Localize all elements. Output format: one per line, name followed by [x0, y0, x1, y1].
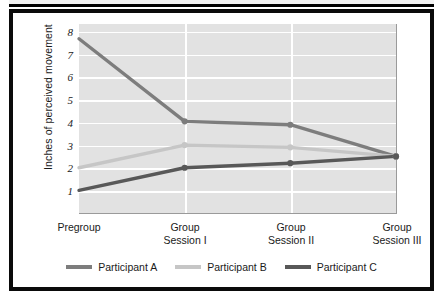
series-line — [79, 156, 396, 190]
legend-item[interactable]: Participant C — [285, 261, 377, 273]
legend-item[interactable]: Participant B — [175, 261, 267, 273]
y-tick-label: 2 — [68, 162, 74, 174]
plot-area: 12345678 — [79, 24, 397, 214]
data-series-layer — [79, 24, 396, 213]
data-point-marker — [182, 165, 188, 171]
figure-root: Inches of perceived movement 12345678 Pr… — [0, 0, 443, 298]
y-tick-label: 8 — [68, 26, 74, 38]
y-tick-label: 6 — [68, 71, 74, 83]
legend-label: Participant B — [207, 261, 267, 273]
legend-line-swatch — [175, 265, 201, 269]
y-tick-label: 5 — [68, 94, 74, 106]
legend-line-swatch — [285, 265, 311, 269]
data-point-marker — [287, 144, 293, 150]
x-tick-label-line: Group — [268, 221, 314, 234]
x-tick-label: GroupSession II — [268, 221, 314, 246]
legend-label: Participant C — [317, 261, 377, 273]
data-point-marker — [287, 160, 293, 166]
x-tick-label-line: Group — [163, 221, 206, 234]
y-axis-title: Inches of perceived movement — [42, 12, 54, 182]
x-tick-label-line: Session III — [372, 234, 421, 247]
series-line — [79, 39, 396, 157]
x-tick-label-line: Session II — [268, 234, 314, 247]
chart-legend: Participant AParticipant BParticipant C — [13, 261, 430, 273]
y-tick-label: 7 — [68, 49, 74, 61]
data-point-marker — [182, 118, 188, 124]
y-tick-label: 4 — [68, 117, 74, 129]
x-tick-label: Pregroup — [57, 221, 100, 234]
y-tick-label: 3 — [68, 140, 74, 152]
chart-area: Inches of perceived movement 12345678 Pr… — [13, 13, 430, 287]
x-tick-label-line: Group — [372, 221, 421, 234]
data-point-marker — [182, 142, 188, 148]
legend-line-swatch — [66, 265, 92, 269]
x-tick-label: GroupSession I — [163, 221, 206, 246]
legend-label: Participant A — [98, 261, 157, 273]
figure-frame: Inches of perceived movement 12345678 Pr… — [9, 9, 434, 291]
legend-item[interactable]: Participant A — [66, 261, 157, 273]
x-tick-label-line: Session I — [163, 234, 206, 247]
top-strip-decoration — [9, 0, 434, 7]
x-tick-label: GroupSession III — [372, 221, 421, 246]
y-tick-label: 1 — [68, 185, 74, 197]
x-tick-label-line: Pregroup — [57, 221, 100, 234]
data-point-marker — [393, 153, 399, 159]
data-point-marker — [287, 122, 293, 128]
